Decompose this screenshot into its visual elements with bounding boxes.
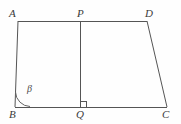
- vertex-label-D: D: [145, 8, 153, 19]
- angle-label-beta: β: [27, 84, 32, 94]
- figure-canvas: [0, 0, 181, 124]
- vertex-label-C: C: [162, 109, 169, 120]
- vertex-label-Q: Q: [76, 109, 84, 120]
- vertex-label-B: B: [9, 109, 16, 120]
- vertex-label-A: A: [9, 8, 16, 19]
- segment-DC: [147, 21, 167, 107]
- right-angle-marker-icon: [80, 101, 86, 107]
- vertex-label-P: P: [77, 8, 84, 19]
- geometry-figure: A P D B Q C β: [0, 0, 181, 124]
- beta-angle-arc-icon: [16, 92, 31, 107]
